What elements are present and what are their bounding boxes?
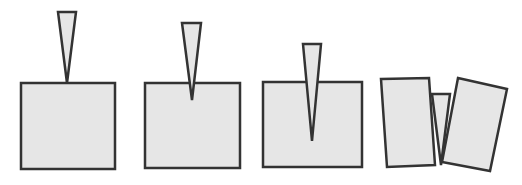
wedge-splitting-diagram [0,0,522,185]
block [21,83,115,169]
block-right-piece [442,78,507,171]
wedge [58,12,76,83]
stage-2 [145,23,240,168]
stage-3 [263,44,362,167]
block-left-piece [381,78,435,167]
stage-4 [381,78,507,171]
stage-1 [21,12,115,169]
